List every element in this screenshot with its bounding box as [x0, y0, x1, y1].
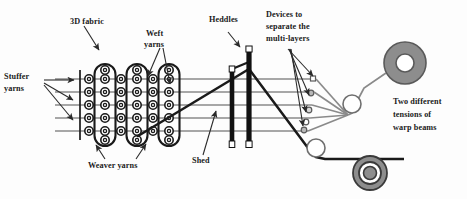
figure-root: 3D fabric Weft yarns Stuffer yarns Weave… [0, 0, 467, 199]
label-devices-line2: separate the [266, 22, 310, 31]
weft-core [135, 103, 138, 106]
heddle-eye-bottom-1 [229, 141, 235, 148]
weft-core [151, 77, 154, 80]
weft-core [167, 129, 170, 132]
heddle-eye-top-2 [246, 46, 252, 52]
weft-core [87, 129, 90, 132]
label-beams-line1: Two different [393, 97, 442, 106]
lower-warp-beam-hub [364, 167, 377, 180]
separator-marker-circle-2 [306, 107, 312, 113]
loom-diagram: 3D fabric Weft yarns Stuffer yarns Weave… [0, 0, 467, 199]
weft-core [135, 68, 138, 71]
weft-core [135, 138, 138, 141]
heddle-eye-top-1 [229, 66, 235, 72]
weft-core [135, 90, 138, 93]
weft-core [167, 138, 170, 141]
label-beams-line2: tensions of [393, 110, 431, 119]
weft-core [119, 77, 122, 80]
weft-core [103, 68, 106, 71]
weft-core [167, 90, 170, 93]
weft-core [119, 116, 122, 119]
weft-core [103, 103, 106, 106]
weft-core [151, 103, 154, 106]
weft-core [119, 90, 122, 93]
weft-core [87, 103, 90, 106]
weft-core [103, 116, 106, 119]
weft-core [167, 103, 170, 106]
label-weft-line2: yarns [144, 40, 164, 49]
separator-marker-square-1 [311, 76, 316, 81]
label-weft-line1: Weft [146, 29, 163, 38]
weft-core [87, 77, 90, 80]
heddle-bar-2 [246, 49, 251, 147]
weft-core [87, 90, 90, 93]
label-3d-fabric: 3D fabric [70, 17, 104, 26]
heddle-bar-1 [230, 69, 235, 147]
label-stuffer-line2: yarns [4, 84, 24, 93]
label-devices-line1: Devices to [266, 10, 302, 19]
weft-core [87, 116, 90, 119]
label-heddles: Heddles [209, 15, 238, 24]
weft-core [103, 77, 106, 80]
weft-core [135, 129, 138, 132]
weft-core [151, 116, 154, 119]
lower-guide-roller [307, 139, 325, 157]
separator-marker-circle-4 [301, 127, 307, 133]
upper-guide-roller [343, 95, 361, 113]
weft-core [151, 129, 154, 132]
label-devices-line3: multi-layers [266, 34, 310, 43]
label-weaver-yarns: Weaver yarns [88, 161, 138, 170]
separator-marker-circle-3 [303, 119, 309, 125]
weft-core [119, 129, 122, 132]
heddle-eye-bottom-2 [246, 141, 252, 148]
weft-core [103, 90, 106, 93]
label-stuffer-line1: Stuffer [4, 72, 30, 81]
weft-core [103, 129, 106, 132]
label-shed: Shed [192, 156, 210, 165]
weft-core [119, 103, 122, 106]
upper-warp-beam-hub [396, 54, 414, 72]
weft-core [135, 116, 138, 119]
label-beams-line3: warp beams [393, 123, 437, 132]
weft-core [151, 90, 154, 93]
weft-core [103, 138, 106, 141]
weft-core [135, 77, 138, 80]
